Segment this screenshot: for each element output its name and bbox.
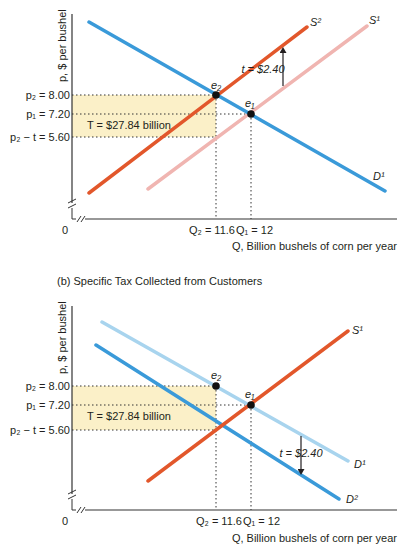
- x-tick-label: Q₁ = 12: [243, 515, 280, 527]
- y-tick-label: p₁ = 7.20: [26, 108, 70, 120]
- y-tick-label: p₁ = 7.20: [26, 399, 70, 411]
- curve-label-s2: S²: [310, 16, 321, 28]
- point-label-e1: e₁: [245, 97, 255, 109]
- point-label-e2: e₂: [211, 369, 222, 381]
- y-tick-label: p₂ = 8.00: [26, 380, 70, 392]
- tax-arrow-label: t = $2.40: [241, 63, 285, 75]
- curve-label-s1: S¹: [369, 14, 380, 26]
- y-tick-label: p₂ = 8.00: [26, 89, 70, 101]
- point-label-e1: e₁: [245, 388, 255, 400]
- tax-revenue-label: T = $27.84 billion: [87, 410, 171, 422]
- tax-revenue-label: T = $27.84 billion: [87, 119, 171, 131]
- axis-break-icon: [68, 490, 85, 513]
- y-axis-label: p, $ per bushel: [56, 9, 68, 82]
- curve-label-s1: S¹: [352, 324, 363, 336]
- tax-incidence-figure: t = $2.40 e₂ e₁ S² S¹ D¹ T = $27.84 bill…: [0, 0, 416, 551]
- panel-a: t = $2.40 e₂ e₁ S² S¹ D¹ T = $27.84 bill…: [10, 9, 397, 252]
- x-axis-label: Q, Billion bushels of corn per year: [232, 532, 397, 544]
- y-tick-label: p₂ − t = 5.60: [10, 131, 70, 143]
- panel-b: (b) Specific Tax Collected from Customer…: [10, 275, 397, 544]
- curve-label-d1: D¹: [354, 458, 366, 470]
- equilibrium-point-e2: [212, 91, 220, 99]
- x-tick-label: Q₂ = 11.6: [196, 515, 242, 527]
- x-tick-label: Q₂ = 11.6: [189, 224, 235, 236]
- x-axis-label: Q, Billion bushels of corn per year: [232, 240, 397, 252]
- curve-label-d2: D²: [346, 493, 358, 505]
- curve-label-d1: D¹: [373, 170, 385, 182]
- panel-b-title: (b) Specific Tax Collected from Customer…: [57, 275, 263, 287]
- axis-break-icon: [68, 199, 85, 222]
- equilibrium-point-e1: [247, 110, 255, 118]
- tax-arrow-label: t = $2.40: [279, 447, 323, 459]
- x-tick-label: Q₁ = 12: [236, 224, 273, 236]
- origin-label: 0: [62, 224, 68, 236]
- y-tick-label: p₂ − t = 5.60: [10, 424, 70, 436]
- equilibrium-point-e2: [212, 382, 220, 390]
- equilibrium-point-e1: [247, 401, 255, 409]
- point-label-e2: e₂: [211, 79, 222, 91]
- origin-label: 0: [62, 515, 68, 527]
- y-axis-label: p, $ per bushel: [56, 301, 68, 374]
